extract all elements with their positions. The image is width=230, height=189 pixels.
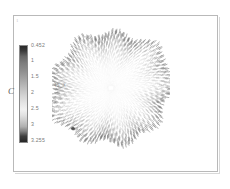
colorbar-tick-5: 3 [31,121,34,127]
field-dark-spot [71,127,75,130]
colorbar-gradient-strip [19,45,28,143]
colorbar-tick-3: 2 [31,89,34,95]
quiver-layer [52,28,170,149]
vector-field-plot [52,26,170,151]
colorbar-axis-title: C [8,86,14,96]
colorbar-tick-2: 1.5 [31,73,39,79]
colorbar-tick-0: 0.452 [31,42,45,48]
colorbar-tick-6: 3.255 [31,137,45,143]
figure-screenshot: 1 45_X C 0.45211.522.533.255 [0,0,230,189]
corner-mark: 1 [16,18,20,23]
colorbar-tick-4: 2.5 [31,105,39,111]
vector-field-svg [52,26,170,151]
colorbar-tick-1: 1 [31,57,34,63]
colorbar: C 0.45211.522.533.255 [18,40,58,146]
